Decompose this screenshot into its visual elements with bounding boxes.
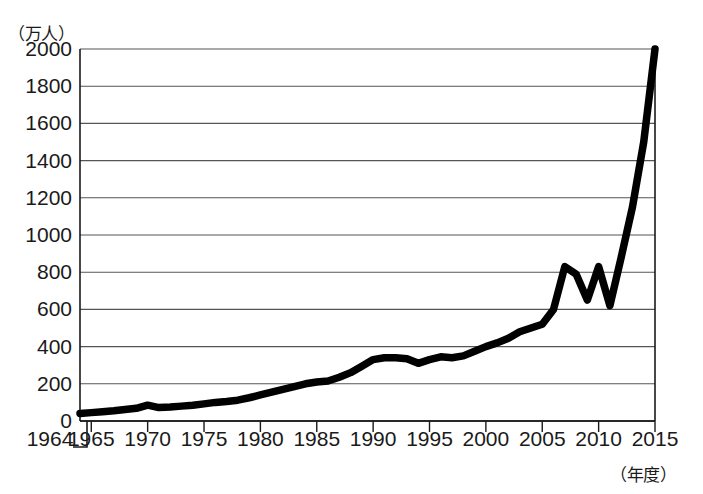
origin-bracket-1964	[73, 421, 87, 447]
x-axis-tickmarks	[91, 421, 655, 432]
chart-plot-area	[0, 0, 703, 494]
chart-container: （万人） 02004006008001000120014001600180020…	[0, 0, 703, 494]
data-line-series-0	[80, 49, 655, 414]
x-axis-unit-label: （年度）	[610, 461, 676, 486]
